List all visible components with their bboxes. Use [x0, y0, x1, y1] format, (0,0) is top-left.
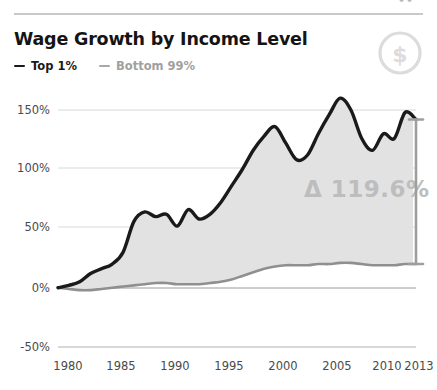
- x-tick-2005: 2005: [322, 359, 351, 373]
- page-title: Wage Growth by Income Level: [14, 29, 308, 49]
- x-tick-2000: 2000: [268, 359, 297, 373]
- chart-svg: 150% 100% 50% 0% -50% Δ 119.6%: [0, 96, 437, 390]
- x-tick-2013: 2013: [404, 359, 433, 373]
- x-tick-1980: 1980: [53, 359, 82, 373]
- y-tick-neg50: -50%: [20, 340, 50, 354]
- header-divider: [14, 13, 423, 15]
- y-tick-0: 0%: [32, 281, 50, 295]
- x-tick-2010: 2010: [372, 359, 401, 373]
- legend-label-bottom-99-percent: Bottom 99%: [116, 59, 195, 73]
- legend-label-top-1-percent: Top 1%: [31, 59, 77, 73]
- chart-card: •• Wage Growth by Income Level Top 1% Bo…: [0, 0, 437, 390]
- x-tick-1995: 1995: [214, 359, 243, 373]
- dollar-circle-icon: $: [377, 30, 423, 76]
- delta-annotation-label: Δ 119.6%: [304, 176, 430, 202]
- y-tick-150: 150%: [17, 103, 50, 117]
- x-tick-1985: 1985: [106, 359, 135, 373]
- legend-swatch-top-1-percent: [14, 65, 25, 68]
- chart-plot-area: 150% 100% 50% 0% -50% Δ 119.6%: [0, 96, 437, 390]
- y-tick-50: 50%: [24, 220, 50, 234]
- legend-item-bottom-99-percent[interactable]: Bottom 99%: [99, 59, 195, 73]
- y-axis-ticks: 150% 100% 50% 0% -50%: [17, 103, 50, 354]
- x-tick-1990: 1990: [160, 359, 189, 373]
- chart-legend: Top 1% Bottom 99%: [14, 59, 195, 73]
- legend-swatch-bottom-99-percent: [99, 65, 110, 68]
- dollar-glyph: $: [392, 42, 407, 67]
- top-cutoff-text: ••: [398, 0, 414, 2]
- y-tick-100: 100%: [17, 161, 50, 175]
- legend-item-top-1-percent[interactable]: Top 1%: [14, 59, 77, 73]
- x-axis-ticks: 1980 1985 1990 1995 2000 2005 2010 2013: [53, 359, 433, 373]
